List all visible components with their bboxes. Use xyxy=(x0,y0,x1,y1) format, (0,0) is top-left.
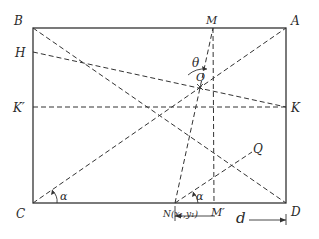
line-n-m xyxy=(175,28,213,203)
label-m-prime: M′ xyxy=(210,206,225,219)
line-b-d-diagonal xyxy=(33,28,286,203)
label-theta: θ xyxy=(192,56,200,70)
label-o: O xyxy=(196,71,205,84)
label-distance-d: d xyxy=(236,209,246,227)
distance-arrowhead-right-icon xyxy=(280,218,286,223)
label-k: K xyxy=(290,101,301,115)
label-k-prime: K′ xyxy=(12,101,25,115)
label-a: A xyxy=(290,14,300,28)
label-c: C xyxy=(16,207,25,221)
geometry-diagram: B A C D M M′ H K′ K O Q N(x₁,y₁) θ α α d xyxy=(0,0,319,239)
label-h: H xyxy=(14,46,26,60)
line-h-k xyxy=(33,52,286,107)
label-b: B xyxy=(13,14,23,28)
label-alpha-n: α xyxy=(196,190,204,203)
line-m-mprime xyxy=(213,28,214,203)
label-d: D xyxy=(290,205,301,219)
label-n: N(x₁,y₁) xyxy=(162,209,199,219)
label-alpha-c: α xyxy=(60,190,68,203)
label-m: M xyxy=(205,14,218,27)
label-q: Q xyxy=(253,142,263,156)
